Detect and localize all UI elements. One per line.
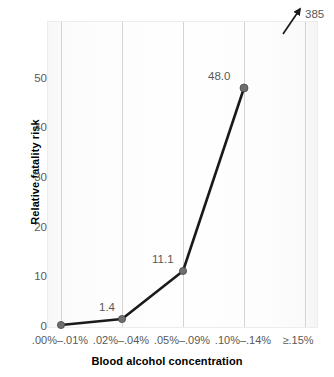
x-axis-title: Blood alcohol concentration [0,355,334,367]
series-line-relative-fatality-risk [48,22,319,329]
x-axis-tick-labels: .00%–.01% .02%–.04% .05%–.09% .10%–.14% … [0,333,334,349]
data-point-marker-4 [240,84,248,92]
y-axis-tick-labels: 50 40 30 20 10 0 [20,0,47,377]
plot-area: 1.4 11.1 48.0 [47,21,318,328]
plot-inner: 1.4 11.1 48.0 [48,22,317,327]
y-tick-label-0: 0 [20,320,47,332]
data-point-marker-3 [179,267,186,274]
off-scale-arrow-icon [280,4,306,36]
data-label-11.1: 11.1 [152,253,174,265]
data-label-1.4: 1.4 [99,301,115,313]
y-tick-label-10: 10 [20,270,47,282]
data-point-marker-2 [118,315,125,322]
y-tick-label-50: 50 [20,72,47,84]
series-polyline [61,88,244,325]
x-tick-label-5: ≥.15% [268,333,328,347]
chart-figure: Relative fatality risk 50 40 30 20 10 0 [0,0,334,377]
y-tick-label-40: 40 [20,121,47,133]
data-point-marker-1 [57,321,64,328]
y-tick-label-20: 20 [20,221,47,233]
y-tick-label-30: 30 [20,171,47,183]
off-scale-value-label: 385 [305,8,324,20]
data-label-48.0: 48.0 [208,70,230,82]
